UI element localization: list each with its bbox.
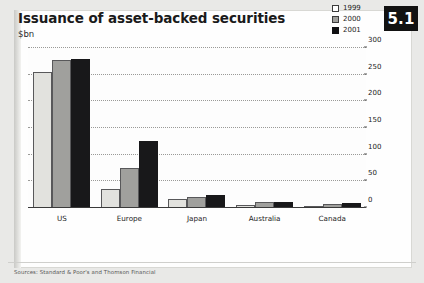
bar-us-2001 [71, 59, 90, 208]
x-axis-label-us: US [57, 214, 67, 223]
legend-item-1999: 1999 [332, 3, 380, 13]
bar-europe-2000 [120, 168, 139, 208]
y-tick-mark [364, 153, 367, 154]
y-tick-label: 300 [368, 36, 398, 44]
y-tick-mark [364, 73, 367, 74]
y-tick-label: 100 [368, 143, 398, 151]
x-axis-label-europe: Europe [117, 214, 142, 223]
y-tick-mark [364, 127, 367, 128]
chart-legend: 199920002001 [332, 3, 380, 36]
legend-swatch-1999 [332, 5, 339, 12]
bar-europe-2001 [139, 141, 158, 208]
bar-us-2000 [52, 60, 71, 208]
y-tick-label: 200 [368, 89, 398, 97]
x-axis-label-canada: Canada [319, 214, 346, 223]
y-tick-label: 250 [368, 63, 398, 71]
bar-group-australia [231, 48, 299, 208]
figure-number-badge: 5.1 [384, 6, 418, 31]
legend-swatch-2000 [332, 16, 339, 23]
bar-group-europe [96, 48, 164, 208]
legend-item-2001: 2001 [332, 25, 380, 35]
bar-europe-1999 [101, 189, 120, 208]
legend-label-2000: 2000 [343, 15, 361, 23]
x-axis-label-japan: Japan [187, 214, 207, 223]
legend-label-1999: 1999 [343, 4, 361, 12]
y-tick-mark [364, 207, 367, 208]
y-tick-mark [364, 47, 367, 48]
legend-swatch-2001 [332, 27, 339, 34]
y-tick-label: 0 [368, 196, 398, 204]
bar-group-japan [163, 48, 231, 208]
figure-title: Issuance of asset-backed securities [18, 10, 285, 26]
legend-item-2000: 2000 [332, 14, 380, 24]
x-axis-label-australia: Australia [249, 214, 281, 223]
y-tick-mark [364, 100, 367, 101]
page-spine-shadow [14, 10, 21, 268]
bar-group-canada [298, 48, 366, 208]
sources-note: Sources: Standard & Poor's and Thomson F… [14, 269, 156, 275]
legend-label-2001: 2001 [343, 26, 361, 34]
y-tick-mark [364, 180, 367, 181]
y-tick-label: 150 [368, 116, 398, 124]
chart-plot-area: 050100150200250300 USEuropeJapanAustrali… [28, 48, 366, 208]
figure-subtitle: $bn [18, 29, 34, 39]
figure-container: 5.1 Issuance of asset-backed securities … [0, 0, 424, 283]
bar-us-1999 [33, 72, 52, 208]
footer-rule [8, 262, 416, 263]
bar-group-us [28, 48, 96, 208]
y-tick-label: 50 [368, 169, 398, 177]
axis-baseline [28, 207, 366, 208]
